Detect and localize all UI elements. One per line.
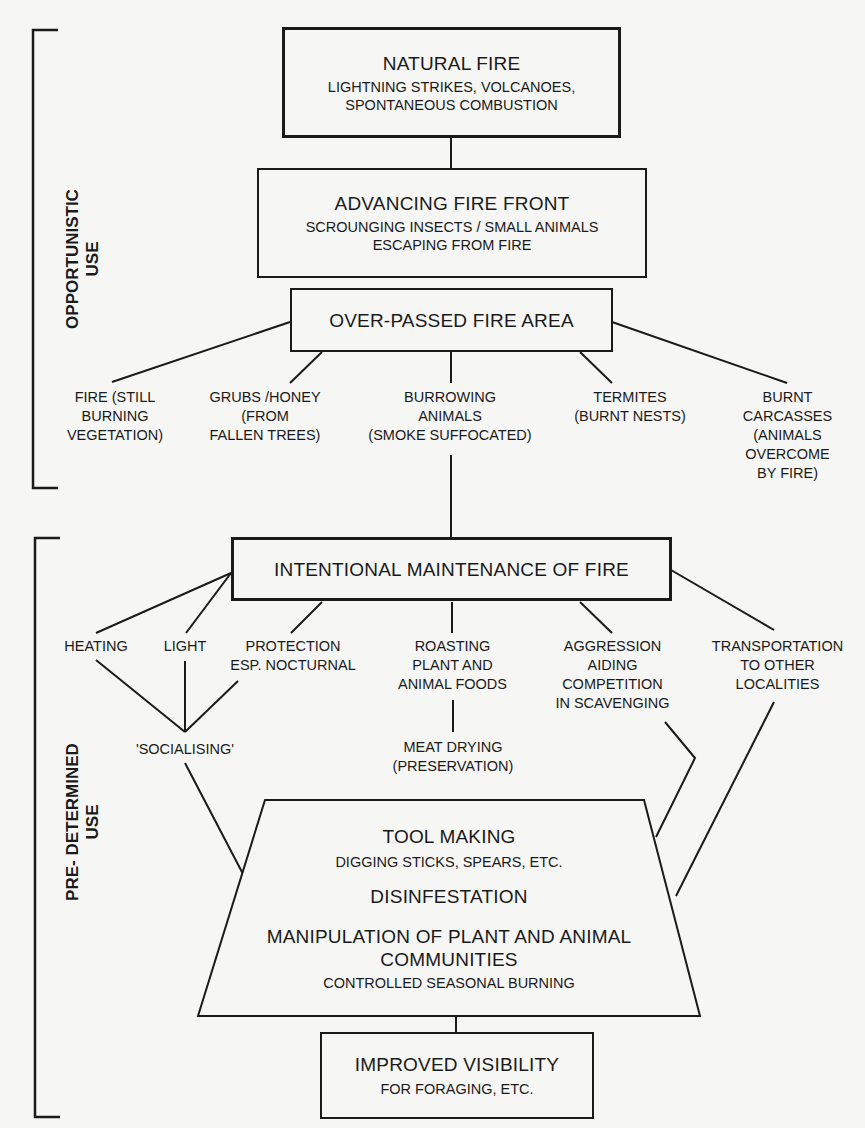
disinfestation-title: DISINFESTATION <box>370 885 527 908</box>
section-label-predetermined: PRE- DETERMINED USE <box>63 732 107 912</box>
leaf-roasting: ROASTING PLANT AND ANIMAL FOODS <box>385 637 520 694</box>
predetermined-bracket <box>35 538 60 1117</box>
activities-trapezoid-text: TOOL MAKING DIGGING STICKS, SPEARS, ETC.… <box>198 805 700 1015</box>
leaf-heating: HEATING <box>56 637 136 656</box>
node-subtitle: ESCAPING FROM FIRE <box>373 236 532 254</box>
node-title: NATURAL FIRE <box>383 52 521 75</box>
leaf-socialising: 'SOCIALISING' <box>120 740 250 759</box>
node-title: OVER-PASSED FIRE AREA <box>329 309 574 332</box>
node-subtitle: FOR FORAGING, ETC. <box>380 1080 533 1098</box>
node-subtitle: LIGHTNING STRIKES, VOLCANOES, <box>328 78 575 96</box>
leaf-burnt-carcasses: BURNT CARCASSES (ANIMALS OVERCOME BY FIR… <box>730 388 845 483</box>
node-title: INTENTIONAL MAINTENANCE OF FIRE <box>274 558 629 581</box>
node-advancing-fire-front: ADVANCING FIRE FRONT SCROUNGING INSECTS … <box>257 168 647 278</box>
node-over-passed-fire-area: OVER-PASSED FIRE AREA <box>290 288 613 352</box>
leaf-aggression: AGGRESSION AIDING COMPETITION IN SCAVENG… <box>540 637 685 713</box>
manipulation-subtitle: CONTROLLED SEASONAL BURNING <box>323 974 575 992</box>
node-title: IMPROVED VISIBILITY <box>355 1053 559 1076</box>
node-improved-visibility: IMPROVED VISIBILITY FOR FORAGING, ETC. <box>320 1032 594 1119</box>
node-subtitle: SCROUNGING INSECTS / SMALL ANIMALS <box>306 218 599 236</box>
leaf-fire-still-burning: FIRE (STILL BURNING VEGETATION) <box>50 388 180 445</box>
node-natural-fire: NATURAL FIRE LIGHTNING STRIKES, VOLCANOE… <box>282 27 621 138</box>
manipulation-title-2: COMMUNITIES <box>380 948 517 971</box>
leaf-transportation: TRANSPORTATION TO OTHER LOCALITIES <box>700 637 855 694</box>
section-label-opportunistic: OPPORTUNISTIC USE <box>63 179 107 339</box>
node-title: ADVANCING FIRE FRONT <box>335 192 570 215</box>
leaf-termites: TERMITES (BURNT NESTS) <box>560 388 700 426</box>
leaf-burrowing-animals: BURROWING ANIMALS (SMOKE SUFFOCATED) <box>360 388 540 445</box>
manipulation-title: MANIPULATION OF PLANT AND ANIMAL <box>267 925 632 948</box>
leaf-protection: PROTECTION ESP. NOCTURNAL <box>228 637 358 675</box>
leaf-grubs-honey: GRUBS /HONEY (FROM FALLEN TREES) <box>190 388 340 445</box>
tool-making-title: TOOL MAKING <box>382 825 515 848</box>
leaf-light: LIGHT <box>155 637 215 656</box>
leaf-meat-drying: MEAT DRYING (PRESERVATION) <box>383 738 523 776</box>
node-intentional-maintenance: INTENTIONAL MAINTENANCE OF FIRE <box>231 537 672 601</box>
tool-making-subtitle: DIGGING STICKS, SPEARS, ETC. <box>335 853 562 871</box>
node-subtitle: SPONTANEOUS COMBUSTION <box>345 96 557 114</box>
